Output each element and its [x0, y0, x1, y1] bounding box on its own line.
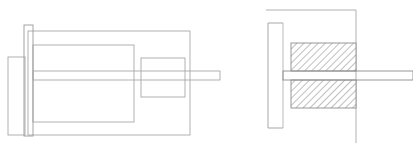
hatched-section-lower	[291, 80, 356, 108]
hatched-section-upper	[291, 43, 356, 71]
technical-drawing-svg	[0, 0, 413, 150]
drawing-canvas	[0, 0, 413, 150]
hatch-lower-pattern	[291, 80, 356, 108]
hatch-upper-pattern	[291, 43, 356, 71]
drawing-background	[0, 0, 413, 150]
